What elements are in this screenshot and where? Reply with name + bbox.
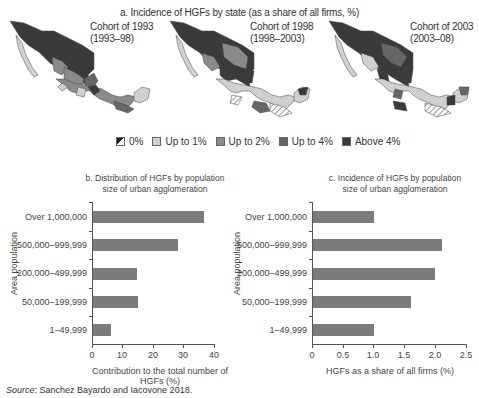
cohort-label-2003: Cohort of 2003 (2003–08): [410, 21, 473, 45]
x-tick: 10: [107, 350, 137, 360]
category-label: Over 1,000,000: [245, 212, 307, 222]
x-tick: 2.0: [420, 350, 450, 360]
chart-b-xlabel: Contribution to the total number of HGFs…: [80, 366, 240, 386]
chart-c-title: c. Incidence of HGFs by population size …: [310, 173, 479, 195]
bar-1-49k: [93, 324, 111, 336]
source-text: : Sanchez Bayardo and Iacovone 2018.: [35, 385, 193, 395]
legend-item-up-to-1: Up to 1%: [152, 136, 206, 147]
category-label: 200,000–499,999: [237, 268, 307, 278]
map-legend: 0% Up to 1% Up to 2% Up to 4% Above 4%: [116, 136, 400, 147]
dark-gray-swatch-icon: [279, 137, 288, 146]
bar-over-1m: [93, 211, 204, 223]
category-label: 1–49,999: [49, 325, 87, 335]
x-tick: 0: [297, 350, 327, 360]
bar-over-1m: [313, 211, 374, 223]
cohort-title: Cohort of 2003: [410, 21, 473, 33]
light-gray-swatch-icon: [152, 137, 161, 146]
x-tick: 20: [138, 350, 168, 360]
bar-1-49k: [313, 324, 374, 336]
x-tick: 40: [199, 350, 229, 360]
x-tick: 2.5: [451, 350, 479, 360]
x-tick: 1.0: [358, 350, 388, 360]
category-label: 50,000–199,999: [22, 297, 87, 307]
category-label: Over 1,000,000: [25, 212, 87, 222]
legend-item-above-4: Above 4%: [342, 136, 401, 147]
cohort-label-1998: Cohort of 1998 (1998–2003): [250, 21, 313, 45]
bar-500k-999k: [313, 239, 442, 251]
category-label: 1–49,999: [269, 325, 307, 335]
darkest-swatch-icon: [342, 137, 351, 146]
bar-200k-499k: [313, 268, 435, 280]
cohort-period: (1998–2003): [250, 33, 313, 45]
source-label: Source: [6, 385, 35, 395]
bar-50k-199k: [313, 296, 411, 308]
x-tick: 0: [77, 350, 107, 360]
chart-b-title: b. Distribution of HGFs by population si…: [70, 173, 240, 195]
cohort-title: Cohort of 1998: [250, 21, 313, 33]
legend-item-up-to-2: Up to 2%: [216, 136, 270, 147]
cohort-period: (2003–08): [410, 33, 473, 45]
x-tick: 0.5: [328, 350, 358, 360]
legend-item-up-to-4: Up to 4%: [279, 136, 333, 147]
chart-c-x-axis: [312, 344, 467, 345]
category-label: 50,000–199,999: [242, 297, 307, 307]
category-label: 200,000–499,999: [17, 268, 87, 278]
bar-200k-499k: [93, 268, 137, 280]
x-tick: 1.5: [389, 350, 419, 360]
x-tick: 30: [168, 350, 198, 360]
category-label: 500,000–999,999: [237, 240, 307, 250]
bar-500k-999k: [93, 239, 178, 251]
cohort-title: Cohort of 1993: [90, 21, 153, 33]
cohort-period: (1993–98): [90, 33, 153, 45]
hatched-swatch-icon: [116, 137, 125, 146]
mid-gray-swatch-icon: [216, 137, 225, 146]
category-label: 500,000–999,999: [17, 240, 87, 250]
cohort-label-1993: Cohort of 1993 (1993–98): [90, 21, 153, 45]
source-note: Source: Sanchez Bayardo and Iacovone 201…: [6, 385, 192, 395]
legend-item-0pct: 0%: [116, 136, 143, 147]
chart-c-xlabel: HGFs as a share of all firms (%): [310, 366, 470, 376]
bar-50k-199k: [93, 296, 138, 308]
